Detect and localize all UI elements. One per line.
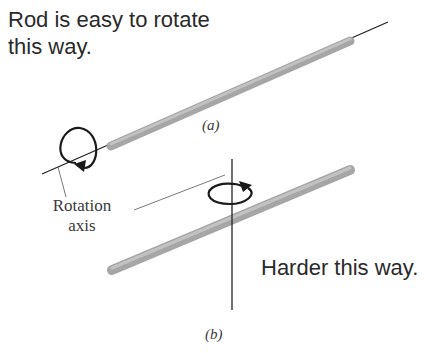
rotation-axis-label-line1: Rotation — [42, 196, 122, 216]
axis-leader-a — [58, 167, 66, 197]
part-a-caption: (a) — [202, 117, 220, 134]
part-a-annotation: Rod is easy to rotate this way. — [8, 6, 210, 60]
part-a-annotation-line2: this way. — [8, 33, 210, 60]
rotation-axis-label: Rotation axis — [42, 196, 122, 236]
part-a-rotation-arrow-icon — [60, 128, 96, 168]
part-a-annotation-line1: Rod is easy to rotate — [8, 6, 210, 33]
axis-leader-b — [134, 175, 225, 210]
part-b-rod-assembly — [112, 159, 350, 310]
rotation-axis-label-line2: axis — [42, 216, 122, 236]
part-b-caption: (b) — [205, 326, 223, 343]
part-b-annotation: Harder this way. — [261, 255, 418, 281]
